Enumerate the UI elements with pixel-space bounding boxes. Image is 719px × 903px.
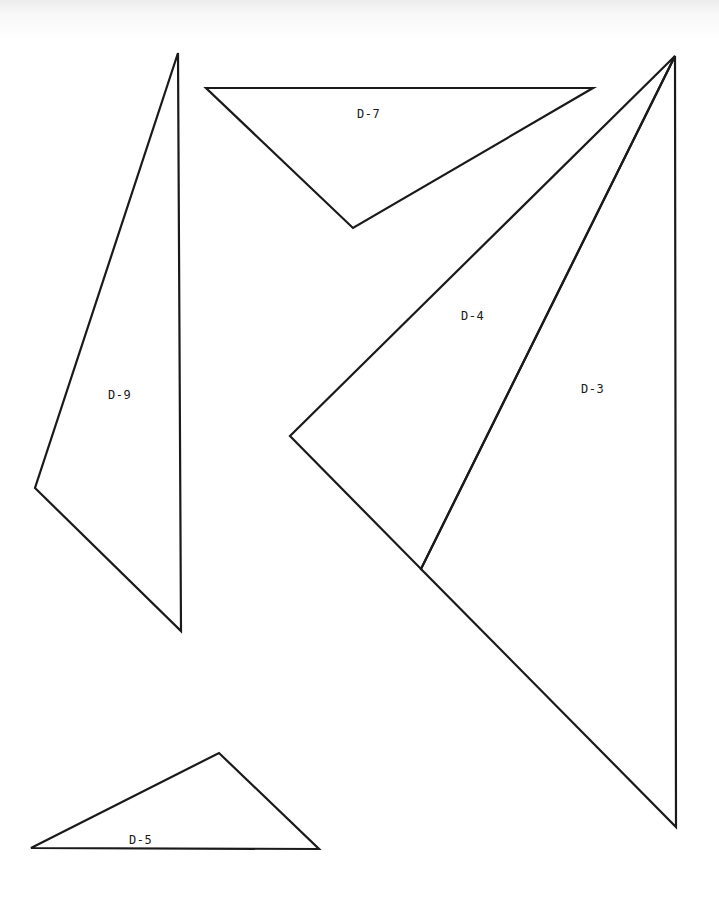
shape-d9-outline	[35, 53, 181, 631]
triangle-pieces-diagram	[0, 0, 719, 903]
shape-d3-outline	[421, 56, 676, 827]
shape-label-d5: D-5	[129, 833, 152, 847]
shape-label-d4: D-4	[461, 309, 484, 323]
shape-label-d7: D-7	[357, 107, 380, 121]
shape-d5-outline	[31, 753, 319, 849]
shape-label-d3: D-3	[581, 382, 604, 396]
shape-label-d9: D-9	[108, 388, 131, 402]
diagram-page: D-9 D-7 D-4 D-3 D-5	[0, 0, 719, 903]
shape-d7-outline	[206, 88, 593, 228]
